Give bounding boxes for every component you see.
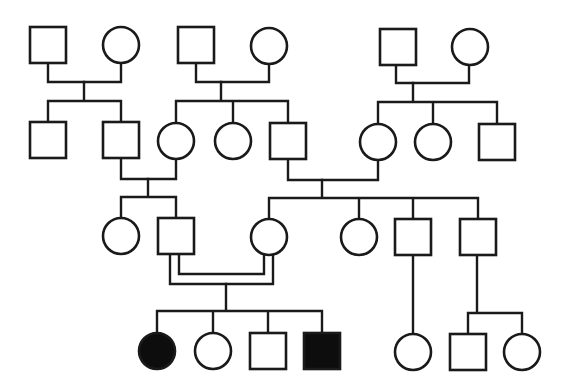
pedigree-canvas	[0, 0, 571, 386]
female-circle-I-6	[452, 29, 488, 65]
male-square-II-2	[103, 122, 139, 158]
affected-male-square-IV-4	[304, 333, 340, 369]
mating-line-II5-II6	[288, 159, 378, 180]
male-square-I-5	[380, 29, 416, 65]
female-circle-II-6	[360, 124, 396, 160]
consanguineous-line-inner	[179, 254, 264, 274]
male-square-II-5	[270, 123, 306, 159]
sibship-line-gen3-fam2	[269, 180, 478, 219]
male-square-II-1	[30, 122, 66, 158]
connector-lines	[48, 63, 522, 334]
pedigree-chart	[0, 0, 571, 386]
female-circle-II-4	[215, 123, 251, 159]
female-circle-III-4	[341, 219, 377, 255]
female-circle-III-3	[251, 219, 287, 255]
female-circle-IV-7	[504, 334, 540, 370]
consanguineous-line-outer	[170, 254, 273, 284]
sibship-line-gen2-fam3	[378, 83, 497, 124]
female-circle-III-1	[103, 218, 139, 254]
mating-line-I5-I6	[396, 65, 469, 83]
female-circle-I-4	[251, 28, 287, 64]
male-square-III-5	[395, 219, 431, 255]
female-circle-IV-5	[395, 334, 431, 370]
female-circle-I-2	[103, 27, 139, 63]
male-square-III-2	[158, 218, 194, 254]
descent-line-III6	[468, 255, 522, 334]
male-square-III-6	[460, 219, 496, 255]
female-circle-IV-2	[195, 333, 231, 369]
sibship-line-gen3-fam1	[121, 179, 176, 218]
male-square-IV-3	[250, 333, 286, 369]
male-square-I-3	[178, 27, 214, 63]
sibship-line-gen4-fam1	[157, 284, 322, 333]
female-circle-II-7	[415, 124, 451, 160]
sibship-line-gen2-fam1	[48, 82, 121, 122]
male-square-IV-6	[450, 334, 486, 370]
male-square-I-1	[30, 27, 66, 63]
female-circle-II-3	[158, 123, 194, 159]
mating-line-I3-I4	[196, 63, 269, 82]
sibship-line-gen2-fam2	[176, 82, 288, 123]
affected-female-circle-IV-1	[139, 333, 175, 369]
male-square-II-8	[479, 124, 515, 160]
mating-line-II2-II3	[121, 158, 176, 179]
mating-line-I1-I2	[48, 63, 121, 82]
